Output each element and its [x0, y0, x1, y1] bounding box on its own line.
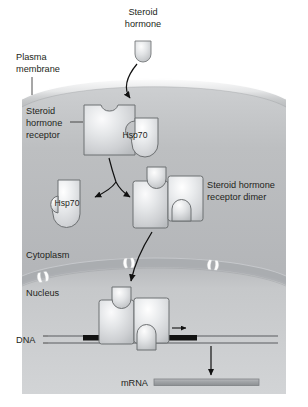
label-receptor-dimer-line2: receptor dimer [207, 192, 266, 202]
hsp70-released-label: Hsp70 [55, 198, 80, 208]
dimer-left-monomer [133, 181, 168, 228]
steroid-hormone-molecule [135, 41, 151, 62]
label-dna-text: DNA [16, 335, 36, 345]
mrna-strand [154, 379, 259, 386]
label-plasma-membrane-line2: membrane [16, 64, 60, 74]
label-steroid-hormone: Steroid hormone [125, 7, 161, 29]
dimer-bound-hormone-bottom [172, 200, 191, 222]
label-receptor-line2: hormone [26, 118, 62, 128]
steroid-hormone-signaling-figure: Hsp70 Hsp70 [0, 0, 308, 407]
label-nucleus: Nucleus [26, 288, 60, 298]
label-receptor-dimer-line1: Steroid hormone [207, 180, 275, 190]
label-mrna: mRNA [121, 378, 149, 388]
label-receptor-line1: Steroid [26, 106, 55, 116]
bound-dimer-hormone-bottom [137, 325, 156, 351]
hsp70-bound-label: Hsp70 [123, 130, 148, 140]
diagram-canvas: Hsp70 Hsp70 [0, 0, 308, 407]
label-steroid-hormone-line1: Steroid [128, 7, 157, 17]
label-steroid-hormone-line2: hormone [125, 19, 161, 29]
bound-dimer-hormone-top [112, 287, 131, 309]
label-plasma-membrane-line1: Plasma [16, 52, 48, 62]
dna-response-element [165, 335, 197, 341]
dimer-bound-hormone-top [147, 167, 166, 189]
label-receptor-line3: receptor [26, 130, 60, 140]
label-cytoplasm: Cytoplasm [26, 250, 70, 260]
mrna-bar [154, 379, 259, 386]
